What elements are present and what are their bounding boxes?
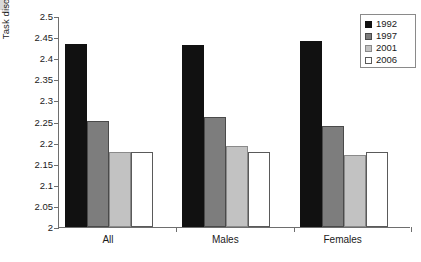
legend-item-1997: 1997 <box>365 30 415 42</box>
x-axis-tick <box>176 227 177 232</box>
y-axis-tick <box>54 38 59 39</box>
legend-label-2001: 2001 <box>376 43 397 53</box>
y-axis-tick-label: 2.25 <box>11 117 53 128</box>
legend-item-2006: 2006 <box>365 54 415 66</box>
y-axis-tick <box>54 59 59 60</box>
legend-swatch-icon-2001 <box>365 45 372 52</box>
bar-1997-all <box>87 121 109 227</box>
x-axis-label-all: All <box>68 234 148 245</box>
x-axis-label-females: Females <box>303 234 383 245</box>
bar-2001-females <box>344 155 366 227</box>
chart-legend: 1992 1997 2001 2006 <box>360 14 416 68</box>
bar-1992-females <box>300 41 322 227</box>
y-axis-tick <box>54 186 59 187</box>
legend-label-2006: 2006 <box>376 55 397 65</box>
bar-1997-females <box>322 126 344 227</box>
y-axis-tick <box>54 144 59 145</box>
y-axis-tick-label: 2 <box>11 222 53 233</box>
bar-2006-males <box>248 152 270 227</box>
bar-chart: Task discretion index 2.52.452.42.352.32… <box>0 0 421 262</box>
bar-2001-males <box>226 146 248 227</box>
y-axis-tick <box>54 17 59 18</box>
bar-1997-males <box>204 117 226 227</box>
y-axis-tick-label: 2.2 <box>11 138 53 149</box>
y-axis-tick-label: 2.15 <box>11 159 53 170</box>
legend-label-1992: 1992 <box>376 19 397 29</box>
legend-item-2001: 2001 <box>365 42 415 54</box>
y-axis-tick-label: 2.3 <box>11 95 53 106</box>
bar-1992-males <box>182 45 204 227</box>
y-axis-tick <box>54 123 59 124</box>
y-axis-tick <box>54 207 59 208</box>
bar-1992-all <box>65 44 87 227</box>
legend-swatch-icon-1992 <box>365 21 372 28</box>
y-axis-tick-label: 2.45 <box>11 32 53 43</box>
y-axis-tick <box>54 228 59 229</box>
bar-2006-females <box>366 152 388 227</box>
y-axis-tick-label: 2.5 <box>11 11 53 22</box>
x-axis-tick <box>411 227 412 232</box>
legend-swatch-icon-1997 <box>365 33 372 40</box>
legend-item-1992: 1992 <box>365 18 415 30</box>
bar-2001-all <box>109 152 131 227</box>
y-axis-tick-label: 2.1 <box>11 180 53 191</box>
y-axis-tick <box>54 80 59 81</box>
y-axis-tick <box>54 165 59 166</box>
y-axis-tick-label: 2.05 <box>11 201 53 212</box>
y-axis-tick-label: 2.4 <box>11 53 53 64</box>
bar-2006-all <box>131 152 153 227</box>
y-axis-tick <box>54 101 59 102</box>
x-axis-tick <box>294 227 295 232</box>
plot-area: 2.52.452.42.352.32.252.22.152.12.052 <box>58 17 410 228</box>
x-axis-label-males: Males <box>185 234 265 245</box>
y-axis-tick-label: 2.35 <box>11 74 53 85</box>
legend-swatch-icon-2006 <box>365 57 372 64</box>
legend-label-1997: 1997 <box>376 31 397 41</box>
